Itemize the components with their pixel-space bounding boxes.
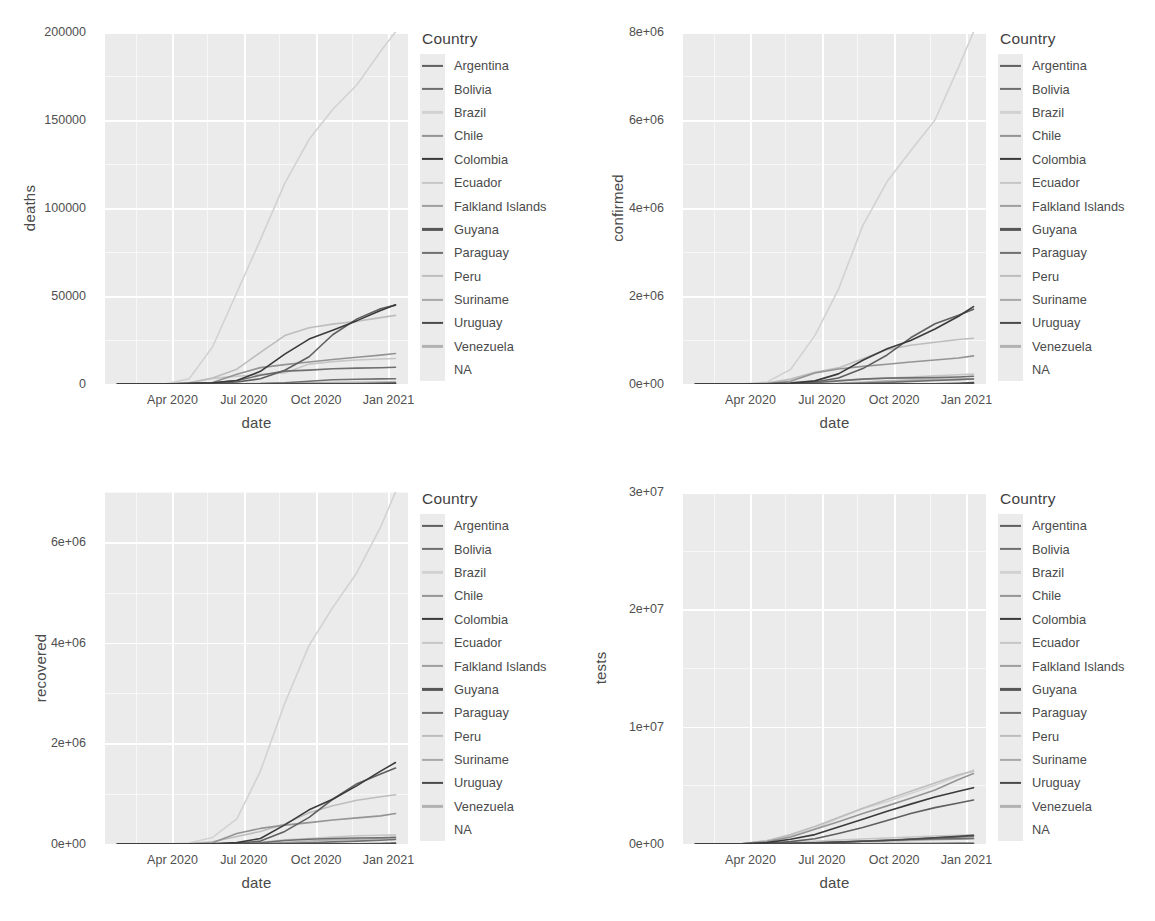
legend-key-swatch: [420, 218, 445, 241]
legend-item-venezuela[interactable]: Venezuela: [420, 335, 546, 358]
legend-item-peru[interactable]: Peru: [998, 265, 1124, 288]
legend-item-uruguay[interactable]: Uruguay: [420, 311, 546, 334]
legend-item-suriname[interactable]: Suriname: [998, 748, 1124, 771]
legend-item-brazil[interactable]: Brazil: [998, 561, 1124, 584]
legend-item-paraguay[interactable]: Paraguay: [420, 701, 546, 724]
legend-item-chile[interactable]: Chile: [420, 584, 546, 607]
legend-item-peru[interactable]: Peru: [998, 725, 1124, 748]
legend-item-paraguay[interactable]: Paraguay: [998, 241, 1124, 264]
plot-confirmed: confirmed0e+002e+064e+066e+068e+06Apr 20…: [578, 0, 1155, 460]
legend-key-swatch: [420, 701, 445, 724]
x-tick-label: Oct 2020: [291, 393, 342, 407]
legend-key-swatch: [420, 725, 445, 748]
legend-key-swatch: [420, 194, 445, 217]
legend-item-paraguay[interactable]: Paraguay: [998, 701, 1124, 724]
y-tick-label: 2e+06: [629, 289, 664, 303]
legend-item-venezuela[interactable]: Venezuela: [998, 335, 1124, 358]
legend-item-na[interactable]: NA: [420, 358, 546, 381]
legend-item-label: Chile: [454, 588, 483, 603]
legend-item-ecuador[interactable]: Ecuador: [998, 171, 1124, 194]
legend-item-chile[interactable]: Chile: [998, 584, 1124, 607]
legend-item-colombia[interactable]: Colombia: [420, 608, 546, 631]
legend-item-na[interactable]: NA: [998, 358, 1124, 381]
legend-item-uruguay[interactable]: Uruguay: [998, 311, 1124, 334]
y-tick-label: 2e+06: [51, 736, 86, 750]
legend-line-icon: [1000, 571, 1021, 573]
legend-key-swatch: [420, 241, 445, 264]
legend-confirmed: CountryArgentinaBoliviaBrazilChileColomb…: [998, 30, 1124, 381]
legend-item-ecuador[interactable]: Ecuador: [420, 171, 546, 194]
legend-key-swatch: [420, 537, 445, 560]
legend-item-colombia[interactable]: Colombia: [420, 148, 546, 171]
legend-item-peru[interactable]: Peru: [420, 265, 546, 288]
legend-item-falkland-islands[interactable]: Falkland Islands: [998, 194, 1124, 217]
legend-item-label: Argentina: [1032, 518, 1087, 533]
legend-key-swatch: [998, 608, 1023, 631]
legend-item-label: Falkland Islands: [1032, 659, 1124, 674]
legend-line-icon: [1000, 525, 1021, 527]
legend-key-swatch: [420, 584, 445, 607]
legend-item-falkland-islands[interactable]: Falkland Islands: [420, 654, 546, 677]
legend-item-label: Bolivia: [454, 542, 492, 557]
legend-item-guyana[interactable]: Guyana: [420, 678, 546, 701]
legend-tests: CountryArgentinaBoliviaBrazilChileColomb…: [998, 490, 1124, 841]
legend-item-colombia[interactable]: Colombia: [998, 608, 1124, 631]
legend-item-brazil[interactable]: Brazil: [998, 101, 1124, 124]
legend-line-icon: [1000, 111, 1021, 113]
legend-item-chile[interactable]: Chile: [998, 124, 1124, 147]
legend-key-swatch: [420, 101, 445, 124]
legend-item-label: Peru: [454, 269, 481, 284]
legend-line-icon: [422, 712, 443, 714]
legend-item-ecuador[interactable]: Ecuador: [420, 631, 546, 654]
y-tick-label: 6e+06: [629, 113, 664, 127]
legend-item-label: Guyana: [1032, 682, 1077, 697]
legend-item-label: NA: [1032, 822, 1050, 837]
legend-item-label: Falkland Islands: [1032, 199, 1124, 214]
legend-item-label: Uruguay: [454, 775, 502, 790]
legend-item-falkland-islands[interactable]: Falkland Islands: [420, 194, 546, 217]
legend-item-suriname[interactable]: Suriname: [420, 748, 546, 771]
legend-item-argentina[interactable]: Argentina: [998, 514, 1124, 537]
series-layer-recovered: [105, 492, 408, 844]
legend-item-guyana[interactable]: Guyana: [998, 218, 1124, 241]
plot-deaths: deaths050000100000150000200000Apr 2020Ju…: [0, 0, 578, 460]
legend-item-venezuela[interactable]: Venezuela: [998, 795, 1124, 818]
legend-item-na[interactable]: NA: [420, 818, 546, 841]
legend-item-brazil[interactable]: Brazil: [420, 101, 546, 124]
legend-line-icon: [1000, 688, 1021, 690]
legend-key-swatch: [998, 818, 1023, 841]
legend-item-bolivia[interactable]: Bolivia: [420, 537, 546, 560]
series-layer-confirmed: [683, 32, 986, 384]
legend-item-argentina[interactable]: Argentina: [420, 514, 546, 537]
legend-line-icon: [1000, 829, 1021, 831]
legend-item-label: Guyana: [454, 222, 499, 237]
legend-item-uruguay[interactable]: Uruguay: [420, 771, 546, 794]
legend-item-uruguay[interactable]: Uruguay: [998, 771, 1124, 794]
legend-item-bolivia[interactable]: Bolivia: [420, 77, 546, 100]
legend-item-guyana[interactable]: Guyana: [998, 678, 1124, 701]
legend-key-swatch: [998, 514, 1023, 537]
legend-item-bolivia[interactable]: Bolivia: [998, 77, 1124, 100]
legend-item-argentina[interactable]: Argentina: [998, 54, 1124, 77]
legend-item-brazil[interactable]: Brazil: [420, 561, 546, 584]
y-tick-label: 200000: [44, 25, 86, 39]
legend-item-colombia[interactable]: Colombia: [998, 148, 1124, 171]
series-line-colombia: [696, 307, 974, 384]
legend-item-chile[interactable]: Chile: [420, 124, 546, 147]
legend-key-swatch: [998, 358, 1023, 381]
legend-item-venezuela[interactable]: Venezuela: [420, 795, 546, 818]
legend-line-icon: [1000, 712, 1021, 714]
legend-item-paraguay[interactable]: Paraguay: [420, 241, 546, 264]
legend-item-ecuador[interactable]: Ecuador: [998, 631, 1124, 654]
legend-item-bolivia[interactable]: Bolivia: [998, 537, 1124, 560]
legend-line-icon: [422, 228, 443, 230]
legend-item-peru[interactable]: Peru: [420, 725, 546, 748]
legend-item-suriname[interactable]: Suriname: [420, 288, 546, 311]
y-tick-label: 1e+07: [629, 720, 664, 734]
legend-key-swatch: [998, 654, 1023, 677]
legend-item-suriname[interactable]: Suriname: [998, 288, 1124, 311]
legend-item-argentina[interactable]: Argentina: [420, 54, 546, 77]
legend-item-guyana[interactable]: Guyana: [420, 218, 546, 241]
legend-item-falkland-islands[interactable]: Falkland Islands: [998, 654, 1124, 677]
legend-item-na[interactable]: NA: [998, 818, 1124, 841]
